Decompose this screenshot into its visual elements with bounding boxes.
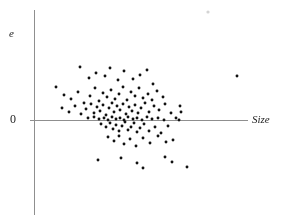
residual-scatter-plot: e 0 Size bbox=[0, 0, 285, 219]
origin-tick-label: 0 bbox=[10, 113, 16, 125]
x-axis-label: Size bbox=[252, 114, 270, 125]
scatter-plot-canvas bbox=[0, 0, 285, 219]
y-axis-label: e bbox=[9, 28, 14, 39]
